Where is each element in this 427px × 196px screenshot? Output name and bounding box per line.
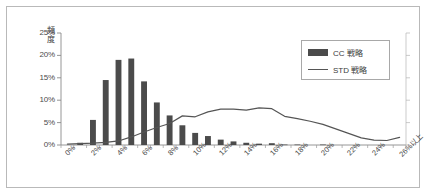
y-tick-label-10%: 10% — [25, 95, 55, 104]
y-tick-label-15%: 15% — [25, 73, 55, 82]
legend-label-cc: CC 戦略 — [333, 47, 363, 58]
bar-7% — [154, 102, 160, 145]
y-tick-label-0%: 0% — [25, 140, 55, 149]
bar-4% — [116, 60, 122, 145]
bar-9% — [179, 125, 185, 145]
legend-label-std: STD 戦略 — [333, 64, 367, 75]
legend-bar-swatch-icon — [308, 49, 328, 56]
chart-legend: CC 戦略 STD 戦略 — [301, 40, 390, 80]
y-tick-label-25%: 25% — [25, 28, 55, 37]
bar-5% — [128, 59, 134, 145]
legend-item-std: STD 戦略 — [308, 62, 367, 76]
legend-item-cc: CC 戦略 — [308, 45, 363, 59]
bar-6% — [141, 81, 147, 145]
y-tick-label-20%: 20% — [25, 50, 55, 59]
bar-3% — [103, 80, 109, 145]
bar-2% — [90, 120, 96, 145]
chart-plot-area — [0, 0, 427, 196]
legend-line-swatch-icon — [308, 69, 328, 70]
y-tick-label-5%: 5% — [25, 118, 55, 127]
bar-8% — [167, 115, 173, 145]
